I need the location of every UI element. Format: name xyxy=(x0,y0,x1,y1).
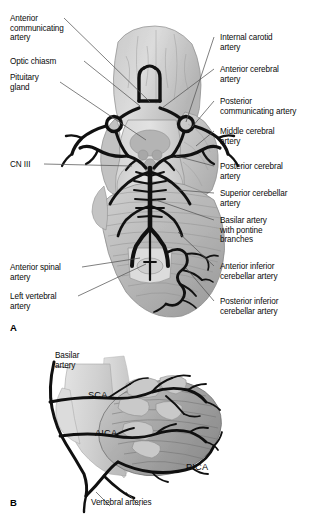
label-cn-iii: CN III xyxy=(10,160,30,170)
label-pituitary-gland: Pituitary gland xyxy=(10,73,39,92)
panel-a-inferior-brain-view: Anterior communicating artery Optic chia… xyxy=(0,0,333,340)
panel-letter-a: A xyxy=(10,322,17,333)
label-basilar-artery: Basilar artery xyxy=(55,351,79,370)
label-internal-carotid-artery: Internal carotid artery xyxy=(220,33,273,52)
panel-b-illustration xyxy=(0,340,333,519)
label-posterior-inferior-cerebellar-artery: Posterior inferior cerebellar artery xyxy=(220,297,278,316)
label-sca: SCA xyxy=(88,390,108,400)
label-anterior-spinal-artery: Anterior spinal artery xyxy=(10,263,61,282)
panel-a-illustration xyxy=(0,0,333,340)
panel-b-lateral-brainstem-view: Basilar artery SCA AICA PICA Vertebral a… xyxy=(0,340,333,519)
label-vertebral-arteries: Vertebral arteries xyxy=(91,498,152,508)
label-basilar-artery-pontine-branches: Basilar artery with pontine branches xyxy=(220,216,267,245)
label-superior-cerebellar-artery: Superior cerebellar artery xyxy=(220,189,287,208)
label-optic-chiasm: Optic chiasm xyxy=(10,57,56,67)
label-anterior-communicating-artery: Anterior communicating artery xyxy=(10,14,64,43)
label-aica: AICA xyxy=(95,428,117,438)
label-anterior-cerebral-artery: Anterior cerebral artery xyxy=(220,65,279,84)
label-anterior-inferior-cerebellar-artery: Anterior inferior cerebellar artery xyxy=(220,262,277,281)
label-posterior-communicating-artery: Posterior communicating artery xyxy=(220,97,296,116)
figure-root: Anterior communicating artery Optic chia… xyxy=(0,0,333,519)
panel-letter-b: B xyxy=(10,497,17,508)
label-posterior-cerebral-artery: Posterior cerebral artery xyxy=(220,162,283,181)
label-middle-cerebral-artery: Middle cerebral artery xyxy=(220,127,274,146)
label-pica: PICA xyxy=(186,462,208,472)
label-left-vertebral-artery: Left vertebral artery xyxy=(10,292,56,311)
